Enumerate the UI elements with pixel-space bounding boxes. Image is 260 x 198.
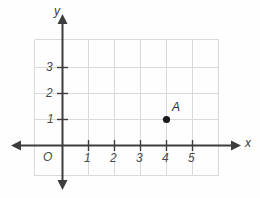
- y-tick-label-2: 2: [46, 87, 53, 99]
- x-tick-label-5: 5: [188, 152, 195, 164]
- x-tick-label-3: 3: [136, 152, 143, 164]
- x-axis-right-arrowhead: [231, 141, 241, 151]
- data-point-a: [163, 116, 170, 123]
- coordinate-plane-figure: y x O 1 2 3 4 5 1 2 3 A: [0, 0, 260, 198]
- x-tick-label-4: 4: [162, 152, 169, 164]
- x-axis-label: x: [245, 137, 251, 149]
- y-tick-label-3: 3: [46, 61, 53, 73]
- y-tick-label-1: 1: [47, 113, 54, 125]
- data-point-label-a: A: [172, 101, 180, 113]
- x-tick-label-2: 2: [110, 152, 117, 164]
- origin-label: O: [43, 151, 52, 163]
- x-axis-left-arrowhead: [11, 141, 21, 151]
- coordinate-plane-graphic: [0, 0, 260, 198]
- y-axis-bottom-arrowhead: [58, 180, 68, 190]
- y-axis: [57, 14, 68, 190]
- x-tick-label-1: 1: [84, 152, 91, 164]
- y-axis-label: y: [54, 5, 60, 17]
